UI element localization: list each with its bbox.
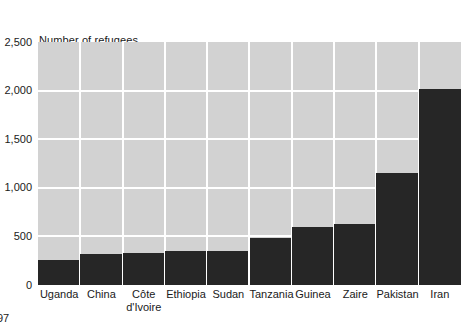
x-axis-tick-label-line: d'Ivoire xyxy=(123,301,165,314)
refugees-bar-chart: Number of refugees in thousands 2,5002,0… xyxy=(0,0,461,331)
x-axis-tick-label: Tanzania xyxy=(250,288,292,301)
y-axis-tick-label: 1,000 xyxy=(4,182,32,193)
bar xyxy=(292,227,334,285)
y-axis: 2,5002,0001,5001,0005000 xyxy=(0,0,36,331)
bar xyxy=(419,89,461,285)
x-axis-tick-label-line: Guinea xyxy=(292,288,334,301)
bar-cell xyxy=(80,42,122,285)
plot-area xyxy=(38,42,461,285)
x-axis-tick-label: Guinea xyxy=(292,288,334,301)
x-axis: UgandaChinaCôted'IvoireEthiopiaSudanTanz… xyxy=(38,288,461,331)
x-axis-tick-label-line: China xyxy=(80,288,122,301)
x-axis-tick-label-line: Tanzania xyxy=(250,288,292,301)
x-axis-tick-label-line: Uganda xyxy=(38,288,80,301)
x-axis-tick-label: Sudan xyxy=(207,288,249,301)
bar-cell xyxy=(419,42,461,285)
x-axis-tick-label-line: Ethiopia xyxy=(165,288,207,301)
y-axis-tick-label: 2,500 xyxy=(4,37,32,48)
y-axis-tick-label: 2,000 xyxy=(4,85,32,96)
bar-cell xyxy=(376,42,418,285)
bar-cell xyxy=(38,42,80,285)
x-axis-tick-label-line: Zaire xyxy=(334,288,376,301)
x-axis-tick-label: Côted'Ivoire xyxy=(123,288,165,313)
bar-cell xyxy=(292,42,334,285)
y-axis-tick-label: 0 xyxy=(26,280,32,291)
bar xyxy=(38,260,80,285)
bar xyxy=(123,253,165,285)
x-axis-tick-label: Ethiopia xyxy=(165,288,207,301)
x-axis-tick-label-line: Pakistan xyxy=(376,288,418,301)
bar xyxy=(207,251,249,285)
x-axis-tick-label: Uganda xyxy=(38,288,80,301)
y-axis-tick-label: 1,500 xyxy=(4,134,32,145)
y-axis-tick-label: 500 xyxy=(14,231,32,242)
bar xyxy=(250,238,292,285)
x-axis-tick-label: Iran xyxy=(419,288,461,301)
x-axis-tick-label-line: Sudan xyxy=(207,288,249,301)
bar xyxy=(334,224,376,285)
page-number: 97 xyxy=(0,312,15,326)
bar-cell xyxy=(165,42,207,285)
x-axis-tick-label-line: Iran xyxy=(419,288,461,301)
x-axis-tick-label: China xyxy=(80,288,122,301)
x-axis-tick-label: Zaire xyxy=(334,288,376,301)
bar-cell xyxy=(207,42,249,285)
bar xyxy=(80,254,122,285)
bar-cell xyxy=(334,42,376,285)
x-axis-tick-label: Pakistan xyxy=(376,288,418,301)
x-axis-tick-label-line: Côte xyxy=(123,288,165,301)
bar xyxy=(165,251,207,285)
bar-cell xyxy=(250,42,292,285)
bar-cell xyxy=(123,42,165,285)
bar xyxy=(376,173,418,285)
bars-group xyxy=(38,42,461,285)
